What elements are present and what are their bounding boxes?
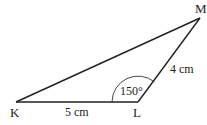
vertex-label-l: L — [133, 105, 141, 120]
vertex-label-k: K — [10, 105, 20, 120]
side-label-lm: 4 cm — [170, 62, 194, 76]
vertex-label-m: M — [195, 1, 207, 16]
triangle-diagram: K L M 5 cm 4 cm 150° — [0, 0, 207, 125]
side-label-kl: 5 cm — [65, 105, 89, 119]
side-km — [16, 18, 200, 102]
side-lm — [138, 18, 200, 102]
angle-label-kml: 150° — [120, 84, 143, 98]
